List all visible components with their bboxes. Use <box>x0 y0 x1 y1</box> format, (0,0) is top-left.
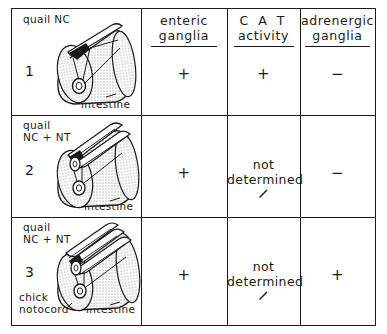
row-3-cat-result: not determined <box>227 259 300 301</box>
figure-results-table: enteric ganglia C A T activity adrenergi… <box>0 0 387 334</box>
row-1-diagram-quail-nc-chick-intestine <box>46 18 144 113</box>
not-determined-line-1: not <box>227 157 300 172</box>
not-determined-line-2: determined <box>227 274 300 289</box>
row-divider-1 <box>12 115 375 116</box>
header-line-2: activity <box>227 28 300 43</box>
header-line-2: ganglia <box>300 28 375 43</box>
row-number-1: 1 <box>25 63 34 79</box>
row-2-adrenergic-result: − <box>300 166 375 181</box>
column-header-enteric-ganglia: enteric ganglia <box>141 13 227 47</box>
header-line-1: C A T <box>227 13 300 28</box>
row-divider-2 <box>12 217 375 218</box>
row-1-adrenergic-result: − <box>300 67 375 82</box>
row-number-2: 2 <box>25 162 34 178</box>
row-2-cat-result: not determined <box>227 157 300 199</box>
header-line-1: adrenergic <box>300 13 375 28</box>
row-1-enteric-result: + <box>141 67 227 82</box>
row-2-diagram-quail-nc-nt-chick-intestine <box>48 119 146 215</box>
row-3-diagram-quail-nc-nt-notocord-chick-intestine <box>48 221 146 317</box>
header-underline <box>151 46 217 47</box>
table-frame: enteric ganglia C A T activity adrenergi… <box>11 8 376 326</box>
header-line-2: ganglia <box>141 28 227 43</box>
not-determined-line-1: not <box>227 259 300 274</box>
header-underline <box>305 46 370 47</box>
row-number-3: 3 <box>25 264 34 280</box>
header-underline <box>234 46 294 47</box>
header-line-1: enteric <box>141 13 227 28</box>
row-1-cat-result: + <box>227 67 300 82</box>
row-3-enteric-result: + <box>141 268 227 283</box>
column-header-cat-activity: C A T activity <box>227 13 300 47</box>
column-header-adrenergic-ganglia: adrenergic ganglia <box>300 13 375 47</box>
not-determined-slash-icon <box>258 290 269 301</box>
not-determined-line-2: determined <box>227 172 300 187</box>
not-determined-slash-icon <box>258 188 269 199</box>
row-2-enteric-result: + <box>141 166 227 181</box>
row-3-adrenergic-result: + <box>300 268 375 283</box>
